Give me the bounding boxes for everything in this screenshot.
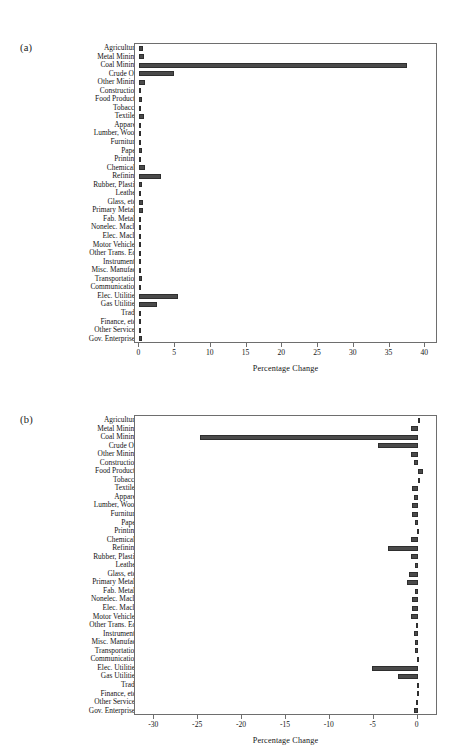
bar-row — [135, 467, 436, 476]
bar — [417, 683, 419, 688]
bar — [409, 572, 417, 577]
bar-row — [135, 232, 436, 241]
bar — [139, 54, 143, 59]
bar — [412, 512, 417, 517]
x-axis-b: -30-25-20-15-10-50 — [134, 715, 437, 737]
bar — [139, 182, 142, 187]
bar — [139, 140, 141, 145]
bar-row — [135, 433, 436, 442]
bar — [139, 46, 143, 51]
axis-tick — [329, 715, 330, 719]
bar-row — [135, 283, 436, 292]
bar — [139, 311, 141, 316]
bar-row — [135, 78, 436, 87]
chart-panel-b: (b) AgricultureMetal MiningCoal MiningCr… — [0, 372, 472, 732]
axis-tick — [241, 715, 242, 719]
bar — [139, 200, 143, 205]
bar-row — [135, 241, 436, 250]
axis-tick-label: 5 — [172, 348, 176, 357]
bar — [414, 460, 418, 465]
axis-tick — [417, 715, 418, 719]
bar-row — [135, 416, 436, 425]
bar-row — [135, 595, 436, 604]
bar-row — [135, 44, 436, 53]
bar — [411, 614, 417, 619]
bar-row — [135, 147, 436, 156]
axis-tick-label: -20 — [236, 720, 246, 729]
bar — [414, 631, 418, 636]
bar-row — [135, 138, 436, 147]
axis-tick-label: -5 — [370, 720, 376, 729]
bar — [411, 554, 417, 559]
plot-area-b — [134, 415, 437, 715]
bar — [412, 503, 418, 508]
category-label: Gov. Enterprises — [40, 335, 138, 344]
axis-tick — [424, 343, 425, 347]
bar-row — [135, 536, 436, 545]
bar — [139, 302, 157, 307]
bar — [398, 674, 417, 679]
axis-tick — [285, 715, 286, 719]
bar-row — [135, 189, 436, 198]
bar-row — [135, 326, 436, 335]
bar-row — [135, 318, 436, 327]
bar-row — [135, 630, 436, 639]
bar — [139, 191, 141, 196]
bar-row — [135, 442, 436, 451]
bar-row — [135, 613, 436, 622]
bar — [139, 97, 141, 102]
axis-tick — [353, 343, 354, 347]
x-axis-title-b: Percentage Change — [134, 736, 437, 745]
bar — [372, 666, 418, 671]
bar — [139, 336, 142, 341]
bar — [415, 563, 417, 568]
bar — [417, 657, 419, 662]
bar-row — [135, 112, 436, 121]
bar-row — [135, 164, 436, 173]
axis-tick-label: -25 — [192, 720, 202, 729]
bar — [139, 251, 141, 256]
bar-row — [135, 335, 436, 344]
axis-tick-label: 15 — [242, 348, 250, 357]
bar-row — [135, 690, 436, 699]
axis-tick — [197, 715, 198, 719]
bar-row — [135, 484, 436, 493]
axis-tick — [389, 343, 390, 347]
bar-row — [135, 544, 436, 553]
bar — [139, 208, 143, 213]
bar-row — [135, 87, 436, 96]
bar-row — [135, 198, 436, 207]
axis-tick — [246, 343, 247, 347]
axis-tick-label: 10 — [206, 348, 214, 357]
axis-tick — [281, 343, 282, 347]
bar-row — [135, 698, 436, 707]
bar-row — [135, 672, 436, 681]
bar — [412, 486, 417, 491]
bar — [139, 259, 141, 264]
bar — [139, 319, 141, 324]
bar-row — [135, 561, 436, 570]
bar — [407, 580, 417, 585]
bar-row — [135, 476, 436, 485]
axis-tick-label: 30 — [349, 348, 357, 357]
bar — [412, 606, 417, 611]
axis-tick — [373, 715, 374, 719]
bar-row — [135, 655, 436, 664]
bar — [416, 700, 418, 705]
bar-row — [135, 181, 436, 190]
axis-tick — [138, 343, 139, 347]
axis-tick — [210, 343, 211, 347]
bar — [417, 529, 419, 534]
axis-tick — [153, 715, 154, 719]
axis-tick — [317, 343, 318, 347]
bar — [417, 691, 419, 696]
bar-row — [135, 647, 436, 656]
bar-row — [135, 104, 436, 113]
bar-row — [135, 493, 436, 502]
bar-row — [135, 70, 436, 79]
bar — [418, 478, 420, 483]
axis-tick-label: 0 — [415, 720, 419, 729]
bar-row — [135, 275, 436, 284]
axis-tick — [174, 343, 175, 347]
